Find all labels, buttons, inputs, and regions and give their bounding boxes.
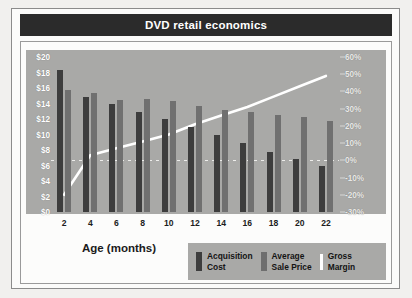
- x-tick-0: 2: [62, 218, 67, 228]
- y-tick-right-0: -30%: [345, 208, 364, 217]
- y-tick-left-2: $4: [41, 177, 50, 186]
- y-tick-right-8: 50%: [345, 70, 361, 79]
- legend-item-1[interactable]: Average Sale Price: [253, 243, 312, 280]
- bar-acquisition-cost-18: [267, 152, 273, 212]
- y-tick-left-3: $6: [41, 161, 50, 170]
- y-tick-mark-right-5: [340, 125, 345, 126]
- bar-acquisition-cost-8: [136, 112, 142, 212]
- y-tick-mark-right-1: [340, 194, 345, 195]
- line-swatch-white-icon: [320, 254, 323, 270]
- y-tick-left-6: $12: [36, 115, 50, 124]
- y-tick-mark-right-8: [340, 74, 345, 75]
- x-tick-9: 20: [295, 218, 305, 228]
- y-tick-left-8: $16: [36, 84, 50, 93]
- x-tick-7: 16: [243, 218, 253, 228]
- y-axis-right: -30%-20%-10%0%10%20%30%40%50%60%: [345, 57, 387, 212]
- bar-acquisition-cost-12: [188, 127, 194, 212]
- bar-average-sale-price-22: [327, 121, 333, 212]
- y-tick-left-9: $18: [36, 68, 50, 77]
- bar-average-sale-price-4: [91, 93, 97, 212]
- y-tick-right-7: 40%: [345, 87, 361, 96]
- y-tick-left-1: $2: [41, 192, 50, 201]
- bar-average-sale-price-6: [117, 100, 123, 212]
- bar-average-sale-price-2: [65, 90, 71, 212]
- bar-swatch-gray-icon: [261, 252, 267, 271]
- legend-item-0[interactable]: Acquisition Cost: [188, 243, 253, 280]
- chart-figure: DVD retail economics $0$2$4$6$8$10$12$14…: [0, 0, 412, 298]
- x-tick-1: 4: [88, 218, 93, 228]
- bar-average-sale-price-8: [144, 99, 150, 212]
- x-tick-6: 14: [216, 218, 226, 228]
- x-tick-4: 10: [164, 218, 174, 228]
- x-tick-8: 18: [269, 218, 279, 228]
- x-tick-3: 8: [140, 218, 145, 228]
- x-axis: 246810121416182022: [51, 218, 339, 232]
- y-tick-mark-right-3: [340, 160, 345, 161]
- chart-title: DVD retail economics: [145, 19, 267, 31]
- bar-acquisition-cost-20: [293, 159, 299, 212]
- bar-acquisition-cost-6: [109, 104, 115, 212]
- y-tick-right-6: 30%: [345, 104, 361, 113]
- y-tick-right-3: 0%: [345, 156, 357, 165]
- legend-label-2: Gross Margin: [328, 251, 355, 272]
- x-tick-10: 22: [321, 218, 331, 228]
- plot-area: [51, 57, 339, 212]
- y-tick-mark-right-7: [340, 91, 345, 92]
- y-tick-left-4: $8: [41, 146, 50, 155]
- y-tick-mark-right-2: [340, 177, 345, 178]
- y-tick-right-1: -20%: [345, 190, 364, 199]
- bar-acquisition-cost-14: [214, 135, 220, 212]
- y-tick-right-2: -10%: [345, 173, 364, 182]
- bar-acquisition-cost-16: [240, 143, 246, 212]
- x-axis-title: Age (months): [54, 242, 184, 254]
- y-axis-left: $0$2$4$6$8$10$12$14$16$18$20: [26, 57, 50, 212]
- chart-title-band: DVD retail economics: [20, 14, 392, 36]
- bar-acquisition-cost-10: [162, 119, 168, 212]
- x-tick-2: 6: [114, 218, 119, 228]
- bar-average-sale-price-18: [275, 115, 281, 212]
- bar-average-sale-price-16: [248, 112, 254, 212]
- bar-average-sale-price-20: [301, 117, 307, 212]
- y-tick-mark-right-4: [340, 143, 345, 144]
- legend-label-0: Acquisition Cost: [207, 251, 253, 272]
- y-tick-left-0: $0: [41, 208, 50, 217]
- y-tick-mark-right-6: [340, 108, 345, 109]
- legend-label-1: Average Sale Price: [272, 251, 312, 272]
- y-tick-left-7: $14: [36, 99, 50, 108]
- bar-swatch-dark-icon: [196, 252, 202, 271]
- bar-average-sale-price-14: [222, 110, 228, 212]
- y-tick-right-9: 60%: [345, 53, 361, 62]
- x-tick-5: 12: [190, 218, 200, 228]
- y-tick-right-4: 10%: [345, 139, 361, 148]
- bar-acquisition-cost-4: [83, 97, 89, 212]
- gross-margin-polyline: [64, 76, 326, 195]
- y-tick-left-5: $10: [36, 130, 50, 139]
- bar-acquisition-cost-22: [319, 166, 325, 213]
- bar-acquisition-cost-2: [57, 70, 63, 212]
- legend-item-2[interactable]: Gross Margin: [312, 243, 355, 280]
- y-tick-left-10: $20: [36, 53, 50, 62]
- y-tick-right-5: 20%: [345, 121, 361, 130]
- bar-average-sale-price-12: [196, 106, 202, 212]
- y-tick-mark-right-0: [340, 212, 345, 213]
- chart-legend: Acquisition CostAverage Sale PriceGross …: [188, 243, 386, 280]
- y-tick-mark-right-9: [340, 57, 345, 58]
- bar-average-sale-price-10: [170, 101, 176, 212]
